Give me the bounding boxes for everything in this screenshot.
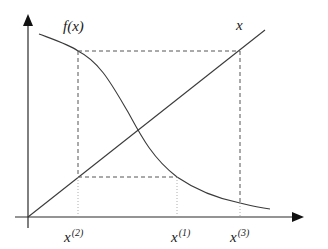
iteration-dashed-lines xyxy=(78,51,240,203)
label-x1-base: x xyxy=(171,229,178,245)
label-x2: x(2) xyxy=(64,228,83,245)
label-x3: x(3) xyxy=(230,228,249,245)
label-x2-sup: (2) xyxy=(72,227,84,238)
y-axis-arrow-icon xyxy=(23,14,33,26)
diagram-svg xyxy=(0,0,328,249)
label-x3-sup: (3) xyxy=(238,227,250,238)
label-x-line: x xyxy=(236,18,243,33)
x-axis-arrow-icon xyxy=(292,212,304,222)
label-fx: f(x) xyxy=(63,19,84,34)
label-x2-base: x xyxy=(64,229,71,245)
label-x1-sup: (1) xyxy=(179,227,191,238)
fx-curve xyxy=(39,34,270,209)
diagram-canvas: f(x) x x(2) x(1) x(3) xyxy=(0,0,328,249)
label-x3-base: x xyxy=(230,229,237,245)
identity-line xyxy=(28,30,265,217)
label-x1: x(1) xyxy=(171,228,190,245)
